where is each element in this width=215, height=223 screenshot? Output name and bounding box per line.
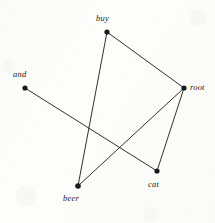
- graph-node-cat[interactable]: [154, 168, 159, 173]
- node-layer: [22, 29, 186, 188]
- graph-node-and[interactable]: [22, 85, 27, 90]
- graph-node-root[interactable]: [181, 85, 186, 90]
- node-label-root: root: [190, 83, 205, 92]
- node-label-beer: beer: [63, 194, 79, 203]
- node-label-cat: cat: [148, 180, 159, 189]
- node-link-graph: [0, 0, 215, 223]
- graph-edge-and-cat: [25, 88, 157, 171]
- graph-edge-buy-root: [107, 32, 184, 88]
- node-label-and: and: [13, 70, 26, 79]
- graph-node-beer[interactable]: [75, 183, 81, 189]
- edge-layer: [25, 32, 184, 186]
- figure-canvas: buyrootandbeercat: [0, 0, 215, 223]
- graph-node-buy[interactable]: [104, 29, 109, 34]
- node-label-buy: buy: [96, 14, 109, 23]
